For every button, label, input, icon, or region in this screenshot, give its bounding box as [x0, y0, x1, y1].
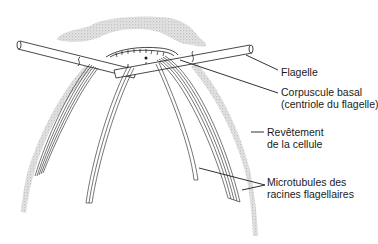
label-corpuscule-basal: Corpuscule basal (centriole du flagelle)	[281, 86, 378, 110]
label-flagelle: Flagelle	[281, 66, 318, 78]
microtubule-roots	[35, 56, 240, 203]
label-revetement: Revêtement de la cellule	[267, 126, 324, 150]
label-microtubules: Microtubules des racines flagellaires	[267, 176, 354, 200]
